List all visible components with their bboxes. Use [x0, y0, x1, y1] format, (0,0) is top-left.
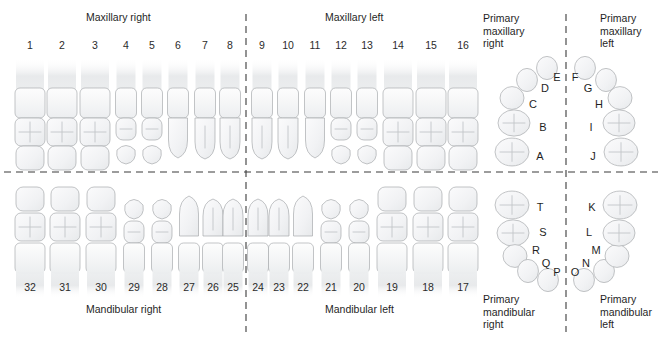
tooth-15 — [416, 58, 446, 170]
tooth-10 — [278, 58, 299, 159]
quadrant-title-mandibular-right: Mandibular right — [86, 303, 161, 315]
tooth-12 — [331, 58, 352, 164]
tooth-4 — [116, 58, 137, 164]
primary-tooth-letter-M: M — [591, 244, 600, 256]
tooth-8 — [220, 58, 241, 159]
primary-tooth-letter-F: F — [572, 71, 579, 83]
primary-tooth-letter-C: C — [529, 98, 537, 110]
primary-tooth-H — [608, 87, 632, 110]
primary-tooth-letter-J: J — [590, 150, 596, 162]
tooth-number-1: 1 — [27, 39, 33, 51]
tooth-3 — [80, 58, 110, 170]
primary-tooth-S — [497, 220, 529, 246]
tooth-number-12: 12 — [335, 39, 347, 51]
tooth-number-32: 32 — [24, 281, 36, 293]
tooth-number-29: 29 — [128, 281, 140, 293]
primary-tooth-B — [498, 110, 530, 136]
tooth-11 — [305, 58, 326, 158]
tooth-16 — [448, 58, 478, 170]
primary-tooth-K — [603, 191, 637, 219]
primary-tooth-letter-L: L — [586, 226, 592, 238]
primary-caption-mandibular-right: Primary mandibular right — [483, 293, 535, 331]
primary-caption-line: Primary — [600, 293, 652, 306]
primary-tooth-letter-Q: Q — [542, 257, 551, 269]
tooth-number-23: 23 — [273, 281, 285, 293]
primary-tooth-letter-D: D — [541, 82, 549, 94]
tooth-number-6: 6 — [175, 39, 181, 51]
tooth-number-30: 30 — [95, 281, 107, 293]
tooth-number-4: 4 — [123, 39, 129, 51]
primary-caption-line: maxillary — [600, 25, 641, 38]
primary-tooth-J — [604, 138, 638, 166]
tooth-number-22: 22 — [297, 281, 309, 293]
primary-tooth-letter-K: K — [588, 201, 595, 213]
primary-tooth-letter-A: A — [536, 150, 543, 162]
primary-caption-mandibular-left: Primary mandibular left — [600, 293, 652, 331]
primary-caption-line: Primary — [483, 12, 524, 25]
tooth-number-20: 20 — [353, 281, 365, 293]
tooth-number-18: 18 — [422, 281, 434, 293]
tooth-number-9: 9 — [259, 39, 265, 51]
tooth-6 — [168, 58, 189, 158]
tooth-number-10: 10 — [282, 39, 294, 51]
tooth-number-2: 2 — [59, 39, 65, 51]
tooth-2 — [47, 58, 77, 170]
tooth-number-5: 5 — [149, 39, 155, 51]
primary-caption-line: maxillary — [483, 25, 524, 38]
primary-caption-line: Primary — [600, 12, 641, 25]
primary-tooth-D — [517, 68, 538, 91]
tooth-1 — [15, 58, 45, 170]
quadrant-title-maxillary-right: Maxillary right — [86, 11, 151, 23]
primary-caption-line: right — [483, 37, 524, 50]
primary-caption-line: left — [600, 37, 641, 50]
primary-tooth-letter-G: G — [584, 82, 593, 94]
primary-caption-line: mandibular — [600, 306, 652, 319]
tooth-number-7: 7 — [202, 39, 208, 51]
tooth-number-25: 25 — [227, 281, 239, 293]
primary-tooth-letter-B: B — [539, 121, 546, 133]
primary-tooth-letter-O: O — [571, 266, 580, 278]
primary-tooth-L — [603, 220, 635, 246]
tooth-number-21: 21 — [325, 281, 337, 293]
primary-tooth-letter-T: T — [537, 201, 544, 213]
tooth-number-24: 24 — [252, 281, 264, 293]
primary-caption-line: Primary — [483, 293, 535, 306]
primary-tooth-I — [603, 110, 635, 136]
primary-tooth-M — [605, 245, 629, 268]
tooth-5 — [142, 58, 163, 164]
tooth-number-26: 26 — [207, 281, 219, 293]
primary-tooth-letter-N: N — [582, 257, 590, 269]
tooth-number-15: 15 — [425, 39, 437, 51]
tooth-number-27: 27 — [183, 281, 195, 293]
primary-tooth-letter-H: H — [595, 98, 603, 110]
tooth-number-13: 13 — [361, 39, 373, 51]
primary-tooth-letter-P: P — [553, 266, 560, 278]
tooth-number-8: 8 — [227, 39, 233, 51]
primary-tooth-A — [495, 138, 529, 166]
primary-caption-maxillary-left: Primary maxillary left — [600, 12, 641, 50]
primary-caption-maxillary-right: Primary maxillary right — [483, 12, 524, 50]
primary-tooth-letter-R: R — [532, 244, 540, 256]
tooth-14 — [383, 58, 413, 170]
tooth-9 — [252, 58, 273, 159]
tooth-number-19: 19 — [386, 281, 398, 293]
tooth-number-16: 16 — [457, 39, 469, 51]
primary-tooth-letter-S: S — [539, 226, 546, 238]
primary-tooth-Q — [518, 259, 539, 282]
tooth-number-17: 17 — [457, 281, 469, 293]
tooth-number-11: 11 — [310, 39, 321, 51]
primary-tooth-letter-E: E — [553, 71, 560, 83]
quadrant-title-mandibular-left: Mandibular left — [325, 303, 394, 315]
primary-caption-line: mandibular — [483, 306, 535, 319]
tooth-number-3: 3 — [92, 39, 98, 51]
primary-tooth-G — [596, 68, 617, 91]
tooth-number-14: 14 — [392, 39, 404, 51]
primary-caption-line: left — [600, 318, 652, 331]
quadrant-title-maxillary-left: Maxillary left — [325, 11, 383, 23]
primary-tooth-C — [500, 87, 524, 110]
primary-tooth-T — [495, 191, 529, 219]
tooth-number-28: 28 — [156, 281, 168, 293]
tooth-13 — [357, 58, 378, 164]
dental-tooth-numbering-chart: Maxillary right Maxillary left Mandibula… — [0, 0, 662, 343]
primary-caption-line: right — [483, 318, 535, 331]
